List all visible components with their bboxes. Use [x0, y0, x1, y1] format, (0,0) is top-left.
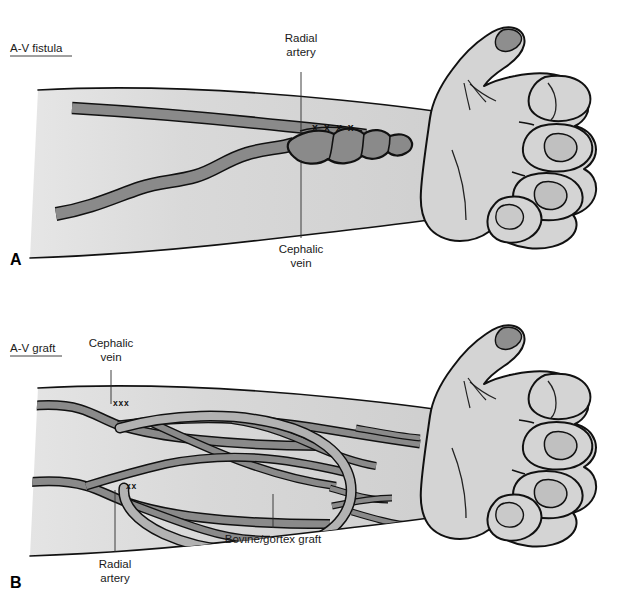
panel-b-title: A-V graft [10, 342, 56, 354]
panel-a-suture-marks: x x x x [312, 121, 355, 133]
panel-a-cephalic-vein-label-line1: Cephalic [279, 243, 324, 255]
panel-b-cephalic-vein-label-line1: Cephalic [89, 337, 134, 349]
panel-b-letter: B [10, 574, 22, 591]
panel-a-radial-artery-label-line1: Radial [285, 32, 318, 44]
panel-a: x x x x A-V fistula Radial artery Cephal… [10, 27, 596, 269]
panel-a-letter: A [10, 251, 22, 268]
panel-a-cephalic-vein-label-line2: vein [290, 257, 311, 269]
panel-b-radial-artery-label-line2: artery [100, 572, 130, 584]
panel-b-artery-suture-marks: xx [126, 481, 137, 491]
panel-a-radial-artery-label-line2: artery [286, 46, 316, 58]
panel-b-graft-label: Bovine/gortex graft [225, 533, 322, 545]
figure-root: x x x x A-V fistula Radial artery Cephal… [0, 0, 617, 600]
panel-b-hand [421, 325, 596, 546]
panel-a-hand [421, 27, 596, 248]
panel-b-vein-suture-marks: xxx [113, 398, 130, 408]
panel-b-cephalic-vein-label-line2: vein [100, 351, 121, 363]
panel-b-radial-artery-label-line1: Radial [99, 558, 132, 570]
panel-b: xxx xx A-V graft Cephalic vein Radial ar… [10, 325, 596, 591]
panel-a-title: A-V fistula [10, 42, 63, 54]
medical-illustration-canvas: x x x x A-V fistula Radial artery Cephal… [0, 0, 617, 600]
